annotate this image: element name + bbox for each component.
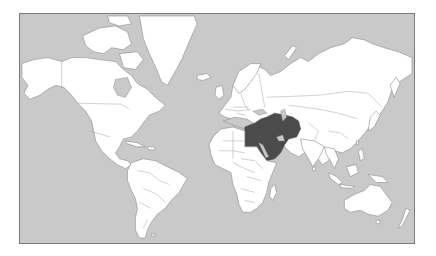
british-isles <box>215 85 224 99</box>
falkland-islands <box>151 234 155 236</box>
new-guinea <box>368 175 388 183</box>
world-map: Middle East <box>19 13 415 244</box>
arctic-island <box>108 16 132 26</box>
sri-lanka <box>313 167 316 171</box>
arctic-island <box>119 52 143 70</box>
map-svg <box>20 14 414 243</box>
sumatra <box>328 173 342 185</box>
cuba <box>125 141 145 147</box>
novaya-zemlya <box>285 46 297 60</box>
taiwan <box>356 141 358 145</box>
south-america <box>127 159 187 238</box>
hispaniola <box>147 147 155 150</box>
arctic-islands <box>83 26 132 54</box>
australia <box>344 185 392 217</box>
north-america <box>22 58 165 169</box>
tasmania <box>376 220 380 224</box>
iceland <box>197 73 211 80</box>
new-zealand <box>398 208 410 228</box>
borneo <box>346 165 358 177</box>
java <box>340 185 354 189</box>
greenland <box>139 16 197 85</box>
philippines <box>358 149 364 161</box>
madagascar <box>270 185 277 201</box>
